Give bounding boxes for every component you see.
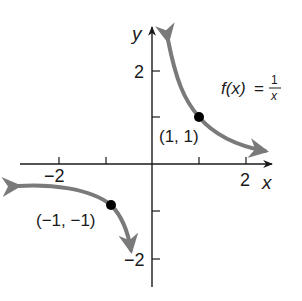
y-tick-label-2: 2 xyxy=(134,62,144,82)
y-axis-label: y xyxy=(130,23,143,44)
x-axis-label: x xyxy=(261,172,273,193)
x-tick-label-2: 2 xyxy=(240,170,250,190)
fraction-denominator: x xyxy=(270,89,278,103)
fraction-numerator: 1 xyxy=(271,73,278,87)
point-label-1-1: (1, 1) xyxy=(159,127,199,146)
point-label-neg1-neg1: (−1, −1) xyxy=(36,211,96,230)
y-tick-label-neg2: −2 xyxy=(124,250,145,270)
point-neg1-neg1 xyxy=(106,200,116,210)
x-tick-label-neg2: −2 xyxy=(44,166,65,186)
point-1-1 xyxy=(194,112,204,122)
reciprocal-function-graph: y x −2 2 2 −2 (1, 1) (−1, −1) f(x) = 1 x xyxy=(0,0,302,301)
function-label: f(x) = 1 x xyxy=(221,73,281,103)
y-axis-ticks xyxy=(152,71,160,259)
function-name: f(x) xyxy=(221,79,246,98)
function-equals: = xyxy=(254,79,264,98)
